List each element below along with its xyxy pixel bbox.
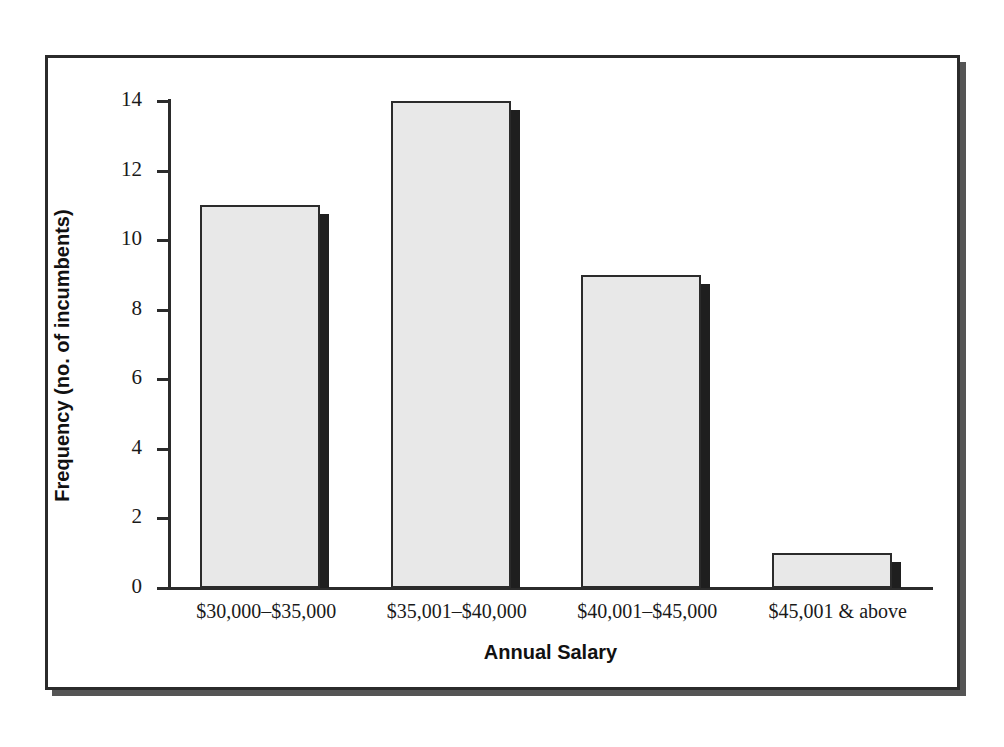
y-tick-label: 10 [100,228,142,249]
y-tick-8: 8 [0,309,170,312]
bar [391,101,511,588]
y-axis-line [168,99,171,590]
y-tick-6: 6 [0,378,170,381]
y-tick-mark [157,378,169,381]
y-tick-4: 4 [0,448,170,451]
y-tick-mark [157,517,169,520]
x-category-label: $45,001 & above [743,600,934,623]
y-tick-2: 2 [0,517,170,520]
y-tick-0: 0 [0,587,170,590]
y-tick-mark [157,309,169,312]
y-axis-title: Frequency (no. of incumbents) [51,176,74,536]
y-tick-mark [157,170,169,173]
bar [581,275,701,588]
y-tick-label: 2 [100,506,142,527]
bar [772,553,892,588]
x-category-label: $35,001–$40,000 [362,600,553,623]
bar-shadow [319,214,329,588]
bar-shadow [891,562,901,588]
y-tick-mark [157,100,169,103]
x-axis-title: Annual Salary [168,641,933,664]
y-tick-label: 14 [100,89,142,110]
y-tick-label: 4 [100,437,142,458]
y-tick-mark [157,239,169,242]
plot-area: 02468101214 $30,000–$35,000$35,001–$40,0… [0,0,1004,747]
x-category-label: $30,000–$35,000 [171,600,362,623]
y-tick-mark [157,448,169,451]
bar-shadow [510,110,520,588]
y-tick-label: 6 [100,367,142,388]
bar [200,205,320,588]
y-tick-10: 10 [0,239,170,242]
y-tick-label: 8 [100,298,142,319]
y-tick-label: 12 [100,159,142,180]
y-tick-label: 0 [100,576,142,597]
bar-shadow [700,284,710,588]
chart-page: 02468101214 $30,000–$35,000$35,001–$40,0… [0,0,1004,747]
x-category-label: $40,001–$45,000 [552,600,743,623]
y-tick-mark [157,587,169,590]
y-tick-12: 12 [0,170,170,173]
y-tick-14: 14 [0,100,170,103]
